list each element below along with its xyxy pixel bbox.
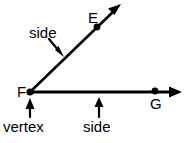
point-label-F: F — [17, 84, 26, 99]
vertex-pointer-arrow — [26, 98, 35, 117]
annotation-label-side-horizontal: side — [83, 119, 111, 134]
horizontal-ray-arrowhead — [169, 87, 182, 98]
annotation-label-side-diagonal: side — [29, 25, 57, 40]
point-dot-G — [152, 88, 159, 95]
diagonal-ray — [30, 4, 121, 92]
annotation-label-vertex: vertex — [3, 119, 44, 134]
side-horizontal-pointer-head — [95, 97, 104, 107]
point-label-E: E — [88, 10, 98, 25]
vertex-pointer-head — [26, 98, 35, 109]
diagonal-ray-line — [30, 10, 115, 92]
point-label-G: G — [150, 96, 162, 111]
side-horizontal-pointer-arrow — [95, 97, 104, 117]
point-dot-F — [26, 88, 33, 95]
side-diagonal-pointer-arrow — [49, 39, 64, 57]
angle-diagram-figure: E F G side side vertex — [0, 0, 185, 143]
